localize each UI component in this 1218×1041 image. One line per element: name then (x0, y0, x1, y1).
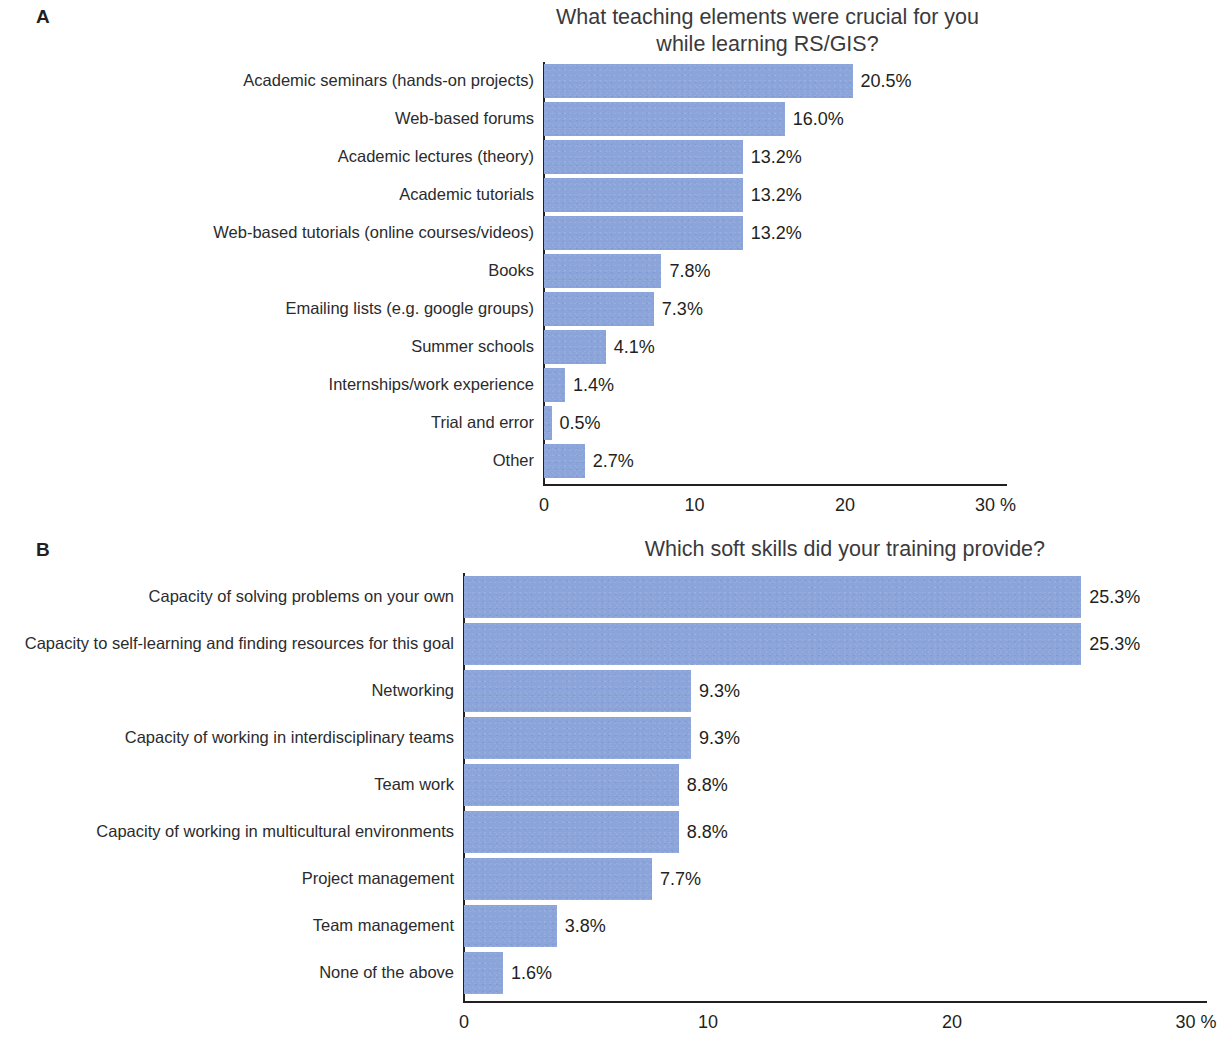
bar-value-label: 13.2% (751, 148, 802, 166)
bar-category-label: Trial and error (431, 414, 534, 431)
bar-value-label: 8.8% (687, 776, 728, 794)
bar-category-label: Project management (302, 870, 454, 887)
x-axis-tick-label: 30 % (936, 496, 1056, 514)
bar-category-label: Team management (313, 917, 454, 934)
panel-a-letter: A (36, 6, 50, 28)
bar-value-label: 16.0% (793, 110, 844, 128)
bar-category-label: Books (488, 262, 534, 279)
bar-row: Capacity of working in interdisciplinary… (0, 717, 1218, 759)
bar-row: Other2.7% (0, 444, 1218, 478)
x-axis-tick-label: 30 % (1136, 1013, 1218, 1031)
panel-a-title: What teaching elements were crucial for … (505, 4, 1030, 58)
panel-a-plot-area: Academic seminars (hands-on projects)20.… (0, 60, 1218, 515)
bar (544, 140, 743, 174)
bar-category-label: Summer schools (411, 338, 534, 355)
bar-value-label: 7.3% (662, 300, 703, 318)
bar-row: Team work8.8% (0, 764, 1218, 806)
bar-value-label: 2.7% (593, 452, 634, 470)
bar (464, 811, 679, 853)
bar-row: Summer schools4.1% (0, 330, 1218, 364)
bar-row: Emailing lists (e.g. google groups)7.3% (0, 292, 1218, 326)
bar (464, 717, 691, 759)
bar-category-label: Capacity to self-learning and finding re… (25, 635, 454, 652)
bar-category-label: Capacity of solving problems on your own (149, 588, 454, 605)
bar-category-label: Emailing lists (e.g. google groups) (285, 300, 534, 317)
x-axis-tick-label: 0 (484, 496, 604, 514)
bar-row: Capacity to self-learning and finding re… (0, 623, 1218, 665)
bar-row: Academic seminars (hands-on projects)20.… (0, 64, 1218, 98)
bar-value-label: 25.3% (1089, 635, 1140, 653)
bar-value-label: 9.3% (699, 682, 740, 700)
bar-category-label: Academic tutorials (399, 186, 534, 203)
bar-value-label: 20.5% (861, 72, 912, 90)
bar-category-label: Networking (371, 682, 454, 699)
bar (544, 254, 661, 288)
bar-value-label: 25.3% (1089, 588, 1140, 606)
bar-category-label: Team work (374, 776, 454, 793)
x-axis-tick-label: 0 (404, 1013, 524, 1031)
bar (544, 292, 654, 326)
bar-category-label: Other (493, 452, 534, 469)
panel-b-plot-area: Capacity of solving problems on your own… (0, 571, 1218, 1041)
bar (464, 576, 1081, 618)
bar-row: Project management7.7% (0, 858, 1218, 900)
panel-a: A What teaching elements were crucial fo… (0, 0, 1218, 515)
bar (464, 670, 691, 712)
bar-row: Web-based tutorials (online courses/vide… (0, 216, 1218, 250)
bar (544, 406, 552, 440)
panel-b-title: Which soft skills did your training prov… (585, 536, 1045, 563)
bar-value-label: 4.1% (614, 338, 655, 356)
x-axis-line (543, 484, 1007, 486)
bar (544, 102, 785, 136)
bar-value-label: 7.7% (660, 870, 701, 888)
bar-value-label: 7.8% (669, 262, 710, 280)
bar-row: Team management3.8% (0, 905, 1218, 947)
bar-row: None of the above1.6% (0, 952, 1218, 994)
bar-row: Academic tutorials13.2% (0, 178, 1218, 212)
bar-category-label: Academic seminars (hands-on projects) (243, 72, 534, 89)
bar-row: Internships/work experience1.4% (0, 368, 1218, 402)
bar-value-label: 9.3% (699, 729, 740, 747)
x-axis-tick-label: 20 (785, 496, 905, 514)
bar (464, 905, 557, 947)
bar (464, 623, 1081, 665)
bar (544, 444, 585, 478)
bar (544, 178, 743, 212)
bar (544, 64, 853, 98)
bar-row: Books7.8% (0, 254, 1218, 288)
bar-row: Capacity of working in multicultural env… (0, 811, 1218, 853)
x-axis-line (463, 1001, 1207, 1003)
bar-category-label: Capacity of working in interdisciplinary… (125, 729, 454, 746)
bar-row: Networking9.3% (0, 670, 1218, 712)
bar (464, 764, 679, 806)
bar (464, 952, 503, 994)
bar (464, 858, 652, 900)
bar (544, 216, 743, 250)
bar-category-label: Academic lectures (theory) (338, 148, 534, 165)
panel-b: B Which soft skills did your training pr… (0, 515, 1218, 1041)
x-axis-tick-label: 20 (892, 1013, 1012, 1031)
x-axis-tick-label: 10 (635, 496, 755, 514)
bar-category-label: Web-based forums (395, 110, 534, 127)
bar-row: Academic lectures (theory)13.2% (0, 140, 1218, 174)
bar-value-label: 13.2% (751, 186, 802, 204)
bar-category-label: None of the above (319, 964, 454, 981)
bar-value-label: 3.8% (565, 917, 606, 935)
bar-value-label: 13.2% (751, 224, 802, 242)
bar-category-label: Capacity of working in multicultural env… (96, 823, 454, 840)
panel-b-letter: B (36, 539, 50, 561)
bar (544, 368, 565, 402)
bar-category-label: Internships/work experience (329, 376, 534, 393)
bar-category-label: Web-based tutorials (online courses/vide… (213, 224, 534, 241)
bar (544, 330, 606, 364)
bar-value-label: 1.4% (573, 376, 614, 394)
figure-two-panel-bar-charts: A What teaching elements were crucial fo… (0, 0, 1218, 1041)
bar-value-label: 1.6% (511, 964, 552, 982)
bar-row: Web-based forums16.0% (0, 102, 1218, 136)
bar-value-label: 0.5% (560, 414, 601, 432)
bar-row: Trial and error0.5% (0, 406, 1218, 440)
x-axis-tick-label: 10 (648, 1013, 768, 1031)
bar-row: Capacity of solving problems on your own… (0, 576, 1218, 618)
bar-value-label: 8.8% (687, 823, 728, 841)
